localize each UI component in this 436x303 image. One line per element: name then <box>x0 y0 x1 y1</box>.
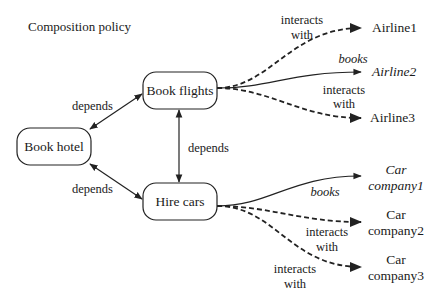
company3-relation-line2: with <box>284 277 307 291</box>
edge-cars-company2 <box>217 206 361 222</box>
company2-label-line1: Car <box>386 207 406 222</box>
company2-relation-line1: interacts <box>306 225 348 239</box>
label-flights-cars: depends <box>188 141 229 155</box>
node-book-hotel-label: Book hotel <box>24 139 84 154</box>
node-hire-cars-label: Hire cars <box>155 194 204 209</box>
company3-label-line1: Car <box>386 252 406 267</box>
company3-label-line2: company3 <box>368 268 424 283</box>
company1-label-line1: Car <box>385 162 407 177</box>
airline2-relation: books <box>338 52 367 66</box>
company2-relation-line2: with <box>316 240 339 254</box>
label-hotel-flights: depends <box>72 99 113 113</box>
airline3-relation-line1: interacts <box>323 83 365 97</box>
airline1-relation-line1: interacts <box>281 13 323 27</box>
airline2-label: Airline2 <box>371 64 416 79</box>
company1-label-line2: company1 <box>368 178 423 193</box>
airline3-label: Airline3 <box>370 110 415 125</box>
composition-policy-diagram: Composition policy depends depends depen… <box>0 0 436 303</box>
airline1-relation-line2: with <box>291 28 314 42</box>
node-hire-cars: Hire cars <box>143 183 217 220</box>
company3-relation-line1: interacts <box>274 262 316 276</box>
label-hotel-cars: depends <box>72 182 113 196</box>
node-book-flights: Book flights <box>143 72 217 109</box>
diagram-title: Composition policy <box>28 19 131 34</box>
company2-label-line2: company2 <box>368 223 424 238</box>
airline3-relation-line2: with <box>333 97 356 111</box>
node-book-flights-label: Book flights <box>146 83 213 98</box>
node-book-hotel: Book hotel <box>17 128 91 165</box>
company1-relation: books <box>310 185 339 199</box>
airline1-label: Airline1 <box>372 20 417 35</box>
